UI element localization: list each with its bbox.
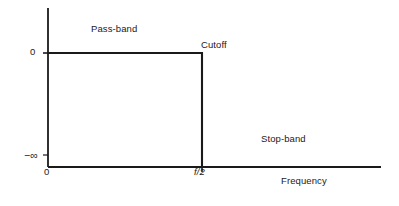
annotation-stop-band: Stop-band xyxy=(261,134,306,144)
x-axis-title: Frequency xyxy=(281,176,327,186)
figure-container: Amplitude Frequency 0 −∞ 0 f/2 Pass-band… xyxy=(0,0,399,206)
y-axis-title: Amplitude xyxy=(0,102,54,116)
x-tick-label-zero: 0 xyxy=(44,167,49,177)
y-tick-label-negative-infinity: −∞ xyxy=(24,150,38,161)
annotation-cutoff: Cutoff xyxy=(201,40,227,50)
response-curve xyxy=(48,53,202,167)
y-tick-label-zero: 0 xyxy=(30,47,35,57)
annotation-pass-band: Pass-band xyxy=(91,24,137,34)
x-tick-label-half-sampling-rate: f/2 xyxy=(194,167,205,177)
